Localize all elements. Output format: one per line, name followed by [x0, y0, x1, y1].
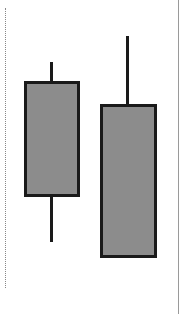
candle-1-upper-wick: [50, 62, 53, 83]
left-dotted-guide-line: [5, 8, 6, 288]
candle-2-upper-wick: [126, 36, 129, 106]
candle-1-body: [24, 81, 80, 197]
candle-1-lower-wick: [50, 196, 53, 242]
candle-2-body: [100, 104, 157, 258]
right-border-line: [178, 0, 179, 314]
